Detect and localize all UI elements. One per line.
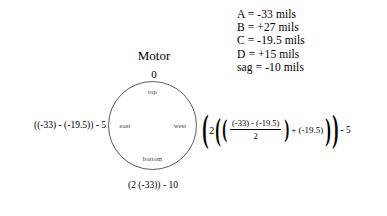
diagram-canvas: A = -33 mils B = +27 mils C = -19.5 mils… (0, 0, 387, 216)
close-paren-inner: ) (284, 116, 289, 142)
direction-label-bottom: bottom (108, 155, 197, 162)
formula-east: ((-33) - (-19.5)) - 5 (6, 120, 106, 131)
values-legend: A = -33 mils B = +27 mils C = -19.5 mils… (237, 8, 382, 74)
direction-label-top: top (108, 88, 197, 95)
fraction-denominator: 2 (252, 130, 260, 141)
equation-plus-term: + (-19.5) (290, 125, 325, 135)
open-paren-outer: ( (202, 110, 208, 148)
legend-line-sag: sag = -10 mils (237, 61, 382, 74)
direction-label-west: west (167, 122, 193, 129)
legend-line-a: A = -33 mils (237, 8, 382, 21)
sag-equation: ( 2 ( ( (-33) - (-19.5) 2 ) + (-19.5) ) … (201, 104, 351, 154)
formula-bottom: (2 (-33)) - 10 (103, 180, 203, 191)
close-paren-outer: ) (333, 110, 339, 148)
legend-line-d: D = +15 mils (237, 48, 382, 61)
direction-label-east: east (112, 122, 138, 129)
equation-fraction: (-33) - (-19.5) 2 (228, 118, 283, 141)
motor-title: Motor (108, 49, 200, 63)
legend-line-b: B = +27 mils (237, 21, 382, 34)
zero-reference-label: 0 (108, 68, 200, 80)
open-paren-inner: ( (222, 116, 227, 142)
legend-line-c: C = -19.5 mils (237, 34, 382, 47)
close-paren-mid: ) (326, 113, 332, 145)
equation-tail: - 5 (340, 125, 351, 135)
open-paren-mid: ( (215, 113, 221, 145)
fraction-numerator: (-33) - (-19.5) (230, 118, 281, 129)
equation-coefficient: 2 (209, 125, 215, 136)
